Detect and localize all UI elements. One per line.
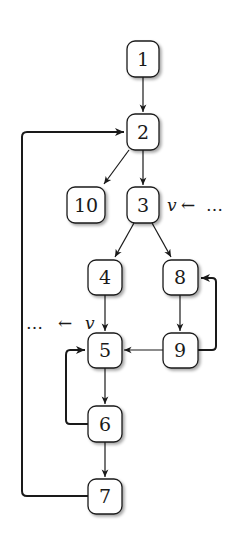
node-5: 5 [88,333,122,368]
back-edge-9-8 [198,278,216,350]
node-label: 1 [137,48,149,70]
node-label: 9 [174,339,186,361]
nodes: 1 2 10 3 4 8 5 9 [67,41,198,514]
edge-2-10 [104,150,129,184]
annotation-var: v [167,195,177,215]
control-flow-graph: 1 2 10 3 4 8 5 9 [0,0,241,540]
annotation-var: v [85,313,95,333]
node-label: 7 [99,485,111,507]
node-label: 5 [99,339,111,361]
node-6: 6 [88,406,122,442]
back-edges [22,132,216,496]
node-4: 4 [88,260,122,295]
edge-3-8 [152,223,171,257]
node-9: 9 [163,333,198,368]
node-label: 2 [137,121,149,143]
left-arrow-icon: ← [58,313,72,333]
annotation-dots: … [26,313,43,333]
node-label: 10 [74,194,98,216]
node-2: 2 [127,114,159,150]
left-arrow-icon: ← [181,195,195,215]
node-label: 4 [99,266,111,288]
node-label: 8 [174,266,186,288]
node-3: 3 [127,187,159,223]
back-edge-6-5 [66,350,88,424]
node-label: 6 [99,413,111,435]
annotation-node5: … ← v [26,313,95,333]
node-1: 1 [127,41,159,77]
node-10: 10 [67,187,105,223]
node-8: 8 [163,260,198,295]
node-7: 7 [88,479,122,514]
edge-3-4 [115,223,134,257]
annotation-dots: … [206,195,223,215]
annotation-node3: v ← … [167,195,223,215]
node-label: 3 [137,194,149,216]
